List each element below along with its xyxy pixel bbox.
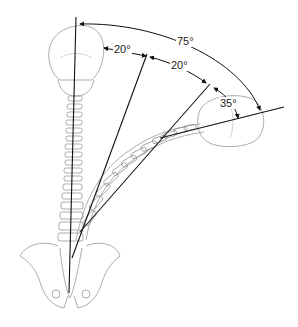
spine-lateral-flexion-diagram: [0, 0, 298, 327]
lumbar-flexion-line: [72, 54, 147, 258]
upright-skull: [49, 25, 104, 96]
cervical-flexion-line: [160, 107, 284, 138]
angle-label-cervical: 35°: [219, 97, 238, 109]
flexed-spine: [76, 124, 204, 240]
thoracic-flexion-line: [80, 84, 210, 232]
vertical-reference-line: [69, 17, 76, 293]
angle-label-thoracic: 20°: [170, 59, 189, 71]
angle-label-lumbar: 20°: [113, 43, 132, 55]
angle-label-total: 75°: [176, 35, 195, 47]
